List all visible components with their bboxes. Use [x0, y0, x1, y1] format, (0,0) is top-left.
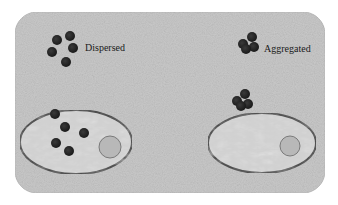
free-particle: [247, 32, 257, 42]
free-particle: [65, 31, 75, 41]
cell-particle: [236, 101, 246, 111]
free-particle: [47, 47, 57, 57]
cell-particle: [64, 146, 74, 156]
cell-particle: [79, 128, 89, 138]
cell-particle: [60, 122, 70, 132]
dispersed-vs-aggregated-diagram: Dispersed Aggregated: [0, 0, 338, 205]
dispersed-label: Dispersed: [85, 42, 125, 53]
free-particle: [68, 43, 78, 53]
aggregated-label: Aggregated: [264, 43, 311, 54]
cell-particle: [240, 89, 250, 99]
free-particle: [52, 35, 62, 45]
free-particle: [241, 44, 251, 54]
free-particle: [61, 57, 71, 67]
cell-particle: [50, 109, 60, 119]
nucleus: [280, 136, 300, 156]
cell-particle: [51, 138, 61, 148]
nucleus: [99, 136, 121, 158]
